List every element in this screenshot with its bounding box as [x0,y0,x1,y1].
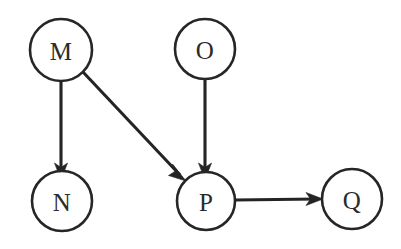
node-o-label: O [196,37,214,64]
diagram-canvas: M O N P Q [0,0,401,249]
node-p-label: P [199,189,213,216]
edge-m-to-p-line [83,72,180,175]
node-m[interactable]: M [30,19,92,81]
edge-p-to-q [235,193,323,206]
edge-m-to-n [55,81,68,180]
node-m-label: M [50,38,73,65]
node-n-label: N [53,189,71,216]
edge-m-to-p [83,72,186,181]
node-o[interactable]: O [175,19,235,79]
node-q-label: Q [343,187,361,214]
node-q[interactable]: Q [322,169,382,229]
node-n[interactable]: N [32,171,92,231]
edge-p-to-q-line [235,199,317,200]
edge-o-to-p [199,79,212,180]
directed-graph: M O N P Q [0,0,401,249]
node-p[interactable]: P [177,172,235,230]
